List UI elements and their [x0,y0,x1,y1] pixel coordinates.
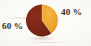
pie-svg [26,3,58,38]
scan-artifact-line-left [4,17,28,19]
scan-artifact-line-bottom [28,42,68,43]
pie-chart-figure: 40 % 60 % [0,0,91,46]
pie-chart-graphic [26,3,58,38]
pie-label-40: 40 % [61,8,82,17]
pie-label-60: 60 % [2,22,23,31]
